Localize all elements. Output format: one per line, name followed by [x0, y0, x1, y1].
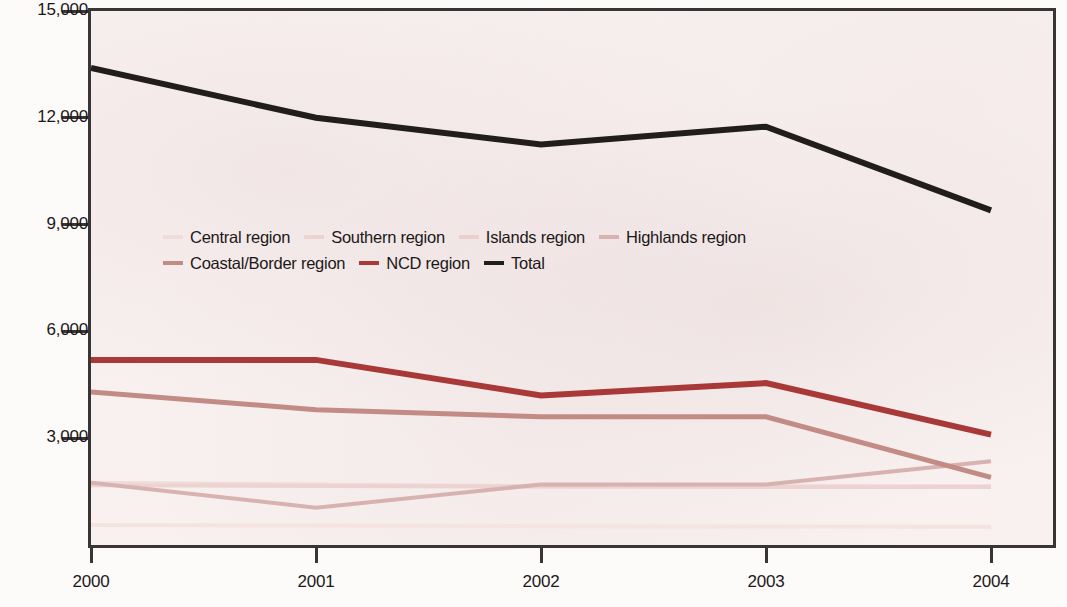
y-axis-tick-label: 3,000 — [30, 427, 88, 447]
chart-legend: Central regionSouthern regionIslands reg… — [163, 224, 803, 276]
legend-swatch-icon — [459, 235, 479, 239]
legend-label: NCD region — [386, 254, 470, 273]
y-axis-tick-label: 6,000 — [30, 320, 88, 340]
legend-swatch-icon — [163, 235, 183, 239]
legend-item[interactable]: Total — [484, 254, 545, 273]
legend-item[interactable]: Southern region — [304, 228, 445, 247]
x-axis-tick-label: 2002 — [501, 572, 581, 592]
legend-swatch-icon — [163, 261, 183, 265]
x-axis-tick — [540, 548, 543, 563]
series-lines — [91, 11, 1053, 545]
legend-item[interactable]: Central region — [163, 228, 290, 247]
y-axis-tick-label: 12,000 — [30, 107, 88, 127]
line-chart: 15,00012,0009,0006,0003,000 200020012002… — [0, 0, 1067, 607]
series-line — [91, 525, 991, 527]
y-axis: 15,00012,0009,0006,0003,000 — [0, 0, 88, 560]
legend-swatch-icon — [304, 235, 324, 239]
legend-row: Central regionSouthern regionIslands reg… — [163, 224, 803, 250]
legend-item[interactable]: Highlands region — [599, 228, 746, 247]
x-axis-tick — [315, 548, 318, 563]
legend-item[interactable]: NCD region — [359, 254, 470, 273]
legend-row: Coastal/Border regionNCD regionTotal — [163, 250, 803, 276]
legend-label: Highlands region — [626, 228, 746, 247]
legend-swatch-icon — [599, 235, 619, 239]
legend-swatch-icon — [484, 261, 504, 265]
x-axis-tick-label: 2004 — [951, 572, 1031, 592]
y-axis-tick-label: 15,000 — [30, 0, 88, 20]
legend-label: Total — [511, 254, 545, 273]
x-axis-tick-label: 2001 — [276, 572, 356, 592]
legend-item[interactable]: Islands region — [459, 228, 585, 247]
legend-swatch-icon — [359, 261, 379, 265]
legend-label: Central region — [190, 228, 290, 247]
legend-label: Islands region — [486, 228, 585, 247]
y-axis-tick-label: 9,000 — [30, 214, 88, 234]
x-axis-tick — [90, 548, 93, 563]
x-axis-tick-label: 2003 — [726, 572, 806, 592]
legend-label: Southern region — [331, 228, 445, 247]
x-axis-tick — [765, 548, 768, 563]
legend-label: Coastal/Border region — [190, 254, 345, 273]
series-line — [91, 360, 991, 435]
plot-area — [88, 8, 1056, 548]
x-axis-tick — [990, 548, 993, 563]
legend-item[interactable]: Coastal/Border region — [163, 254, 345, 273]
x-axis-tick-label: 2000 — [51, 572, 131, 592]
series-line — [91, 68, 991, 210]
